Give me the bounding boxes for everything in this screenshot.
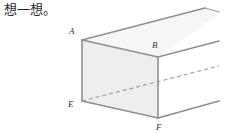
vertex-label-a: A — [68, 26, 75, 36]
vertex-label-b: B — [152, 40, 158, 50]
vertex-label-e: E — [67, 99, 74, 109]
vertex-label-f: F — [155, 122, 162, 132]
page-canvas: 想一想。 A B E F — [0, 0, 225, 133]
edge-f-bottom-receding — [158, 101, 219, 118]
geometry-figure: A B E F — [0, 0, 225, 133]
